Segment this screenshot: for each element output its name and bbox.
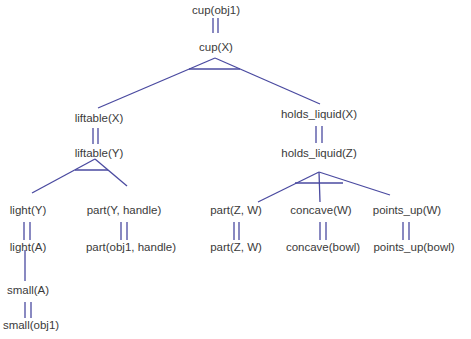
node-part-z-w: part(Z, W) <box>210 204 262 217</box>
unify-edge-liftable <box>93 128 98 144</box>
node-cup-obj1: cup(obj1) <box>192 4 240 17</box>
explanation-tree-diagram: cup(obj1) cup(X) liftable(X) liftable(Y)… <box>0 0 471 339</box>
node-part-obj1-handle: part(obj1, handle) <box>86 241 176 254</box>
unify-edge-cup <box>213 18 218 33</box>
node-concave-bowl: concave(bowl) <box>286 241 360 254</box>
node-liftable-x: liftable(X) <box>75 112 124 125</box>
node-light-a: light(A) <box>10 241 46 254</box>
unify-edge-part-zw <box>234 222 239 240</box>
node-small-obj1: small(obj1) <box>3 319 59 332</box>
unify-edge-concave <box>320 222 326 240</box>
node-holds-liquid-z: holds_liquid(Z) <box>281 147 356 160</box>
node-points-up-w: points_up(W) <box>373 204 441 217</box>
node-holds-liquid-x: holds_liquid(X) <box>281 108 357 121</box>
node-part-z-w-2: part(Z, W) <box>210 241 262 254</box>
node-cup-x: cup(X) <box>199 41 233 54</box>
unify-edge-points-up <box>403 222 409 240</box>
node-light-y: light(Y) <box>10 204 46 217</box>
node-liftable-y: liftable(Y) <box>75 147 124 160</box>
unify-edge-light <box>24 222 30 240</box>
node-points-up-bowl: points_up(bowl) <box>373 241 454 254</box>
tree-edges <box>0 0 471 339</box>
and-edge-liftable <box>32 159 127 193</box>
unify-edge-part-handle <box>121 222 127 240</box>
unify-edge-small <box>25 302 31 318</box>
and-edge-cup <box>98 58 320 108</box>
node-concave-w: concave(W) <box>290 204 351 217</box>
unify-edge-holds-liquid <box>316 126 322 143</box>
node-small-a: small(A) <box>7 284 49 297</box>
and-edge-holds-liquid <box>258 172 390 202</box>
node-part-y-handle: part(Y, handle) <box>87 204 162 217</box>
